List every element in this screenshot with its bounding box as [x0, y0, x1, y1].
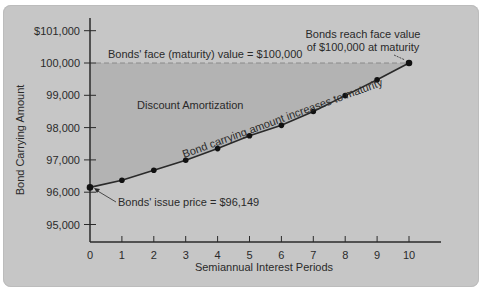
y-tick-label: 100,000: [40, 57, 80, 69]
y-tick-label: 96,000: [46, 186, 80, 198]
issue-price-label: Bonds' issue price = $96,149: [118, 196, 259, 208]
data-point: [119, 177, 125, 183]
maturity-label-line1: Bonds reach face value: [306, 28, 421, 40]
x-tick-label: 6: [278, 249, 284, 261]
x-tick-label: 10: [403, 249, 415, 261]
x-tick-label: 8: [342, 249, 348, 261]
x-axis-title: Semiannual Interest Periods: [195, 261, 334, 273]
y-tick-label: 98,000: [46, 122, 80, 134]
y-tick-label: 99,000: [46, 89, 80, 101]
issue-price-pointer: [96, 190, 116, 202]
x-tick-label: 5: [246, 249, 252, 261]
x-tick-label: 4: [215, 249, 221, 261]
discount-amortization-label: Discount Amortization: [137, 99, 243, 111]
x-axis-ticks: 012345678910: [87, 236, 415, 261]
y-tick-label: 95,000: [46, 219, 80, 231]
y-tick-label: $101,000: [34, 25, 80, 37]
maturity-label-line2: of $100,000 at maturity: [307, 41, 420, 53]
x-tick-label: 2: [151, 249, 157, 261]
x-tick-label: 1: [119, 249, 125, 261]
bond-amortization-chart: 95,00096,00097,00098,00099,000100,000$10…: [0, 0, 485, 295]
y-axis-title: Bond Carrying Amount: [14, 85, 26, 196]
data-point: [87, 184, 94, 191]
y-tick-label: 97,000: [46, 154, 80, 166]
x-tick-label: 3: [183, 249, 189, 261]
maturity-pointer: [394, 55, 405, 60]
x-tick-label: 0: [87, 249, 93, 261]
data-point: [151, 167, 157, 173]
x-tick-label: 9: [374, 249, 380, 261]
data-point: [406, 60, 413, 67]
x-tick-label: 7: [310, 249, 316, 261]
y-axis-ticks: 95,00096,00097,00098,00099,000100,000$10…: [34, 25, 96, 231]
face-value-label: Bonds' face (maturity) value = $100,000: [108, 48, 302, 60]
